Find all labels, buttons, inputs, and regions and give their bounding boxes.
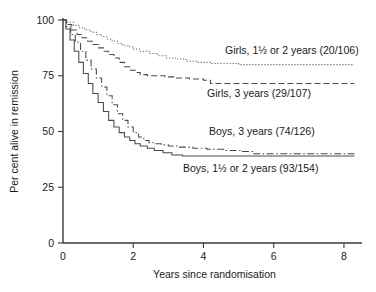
- series-label-3: Boys, 1½ or 2 years (93/154): [183, 162, 318, 174]
- y-tick-label: 75: [42, 69, 54, 81]
- y-tick-label: 25: [42, 181, 54, 193]
- y-tick-label: 100: [36, 14, 54, 26]
- labels-layer: Years since randomisationPer cent alive …: [8, 44, 359, 280]
- y-tick-label: 50: [42, 125, 54, 137]
- series-label-0: Girls, 1½ or 2 years (20/106): [225, 44, 359, 56]
- x-tick-label: 0: [60, 250, 66, 262]
- y-axis-title: Per cent alive in remission: [8, 70, 20, 193]
- series-label-2: Boys, 3 years (74/126): [209, 125, 315, 137]
- x-tick-label: 8: [341, 250, 347, 262]
- series-label-1: Girls, 3 years (29/107): [207, 87, 311, 99]
- survival-chart: 025507510002468 Years since randomisatio…: [0, 0, 376, 292]
- x-tick-label: 6: [271, 250, 277, 262]
- x-tick-label: 4: [201, 250, 207, 262]
- y-tick-label: 0: [48, 237, 54, 249]
- x-tick-label: 2: [130, 250, 136, 262]
- x-axis-title: Years since randomisation: [153, 268, 276, 280]
- series-curve-0: [63, 20, 354, 65]
- chart-canvas: 025507510002468 Years since randomisatio…: [0, 0, 376, 292]
